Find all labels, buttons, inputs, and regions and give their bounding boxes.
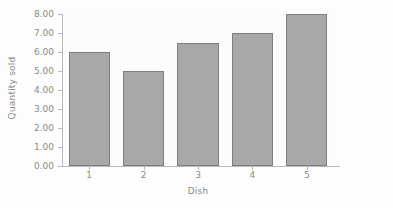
bar[interactable] xyxy=(286,14,327,166)
y-tick-mark xyxy=(58,14,62,15)
x-axis-title: Dish xyxy=(62,186,334,196)
x-axis-line xyxy=(62,166,340,167)
y-tick-mark xyxy=(58,90,62,91)
y-axis-tick-labels: 0.001.002.003.004.005.006.007.008.00 xyxy=(24,14,58,166)
plot-area xyxy=(62,14,334,166)
y-tick-label: 7.00 xyxy=(34,28,54,38)
bar[interactable] xyxy=(232,33,273,166)
y-axis-title-label: Quantity sold xyxy=(7,56,17,119)
bar[interactable] xyxy=(177,43,218,167)
y-tick-mark xyxy=(58,52,62,53)
y-tick-label: 4.00 xyxy=(34,85,54,95)
y-tick-mark xyxy=(58,109,62,110)
bar[interactable] xyxy=(123,71,164,166)
y-tick-label: 6.00 xyxy=(34,47,54,57)
bar-chart-figure: Quantity sold 0.001.002.003.004.005.006.… xyxy=(0,0,393,208)
y-tick-label: 2.00 xyxy=(34,123,54,133)
bar[interactable] xyxy=(69,52,110,166)
x-tick-label: 1 xyxy=(86,170,92,180)
y-tick-mark xyxy=(58,71,62,72)
y-tick-mark xyxy=(58,166,62,167)
y-tick-label: 8.00 xyxy=(34,9,54,19)
y-tick-mark xyxy=(58,128,62,129)
y-tick-mark xyxy=(58,147,62,148)
y-tick-label: 3.00 xyxy=(34,104,54,114)
y-tick-label: 1.00 xyxy=(34,142,54,152)
x-tick-label: 5 xyxy=(304,170,310,180)
x-axis-tick-labels: 12345 xyxy=(62,170,334,184)
y-tick-mark xyxy=(58,33,62,34)
x-tick-label: 4 xyxy=(250,170,256,180)
x-tick-label: 3 xyxy=(195,170,201,180)
y-axis-title: Quantity sold xyxy=(0,0,24,175)
x-tick-label: 2 xyxy=(141,170,147,180)
y-tick-label: 0.00 xyxy=(34,161,54,171)
bars-layer xyxy=(62,14,334,166)
y-tick-label: 5.00 xyxy=(34,66,54,76)
